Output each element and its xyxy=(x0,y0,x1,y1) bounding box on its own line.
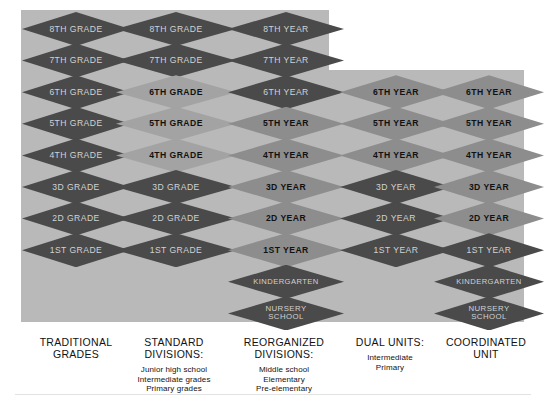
caption-heading: REORGANIZEDDIVISIONS: xyxy=(224,336,344,360)
cell-label: KINDERGARTEN xyxy=(456,278,522,286)
cell-label: 3D GRADE xyxy=(152,183,200,192)
cell-label: 3D YEAR xyxy=(376,183,416,192)
cell-label: 7TH GRADE xyxy=(149,56,202,65)
cell-label: 1ST YEAR xyxy=(467,246,512,255)
caption-heading: STANDARDDIVISIONS: xyxy=(112,336,236,360)
cell-label: 2D GRADE xyxy=(152,214,200,223)
caption-reorganized-divisions: REORGANIZEDDIVISIONS:Middle schoolElemen… xyxy=(224,336,344,394)
cell-label: 6TH YEAR xyxy=(373,88,419,97)
cell-label: 6TH YEAR xyxy=(263,88,308,97)
cell-label: 8TH GRADE xyxy=(49,25,102,34)
cell-label: 4TH GRADE xyxy=(149,151,203,160)
cell-label: 5TH GRADE xyxy=(149,119,203,128)
cell-label: NURSERYSCHOOL xyxy=(468,305,509,321)
cell-label: 1ST YEAR xyxy=(374,246,419,255)
cell-label: 7TH GRADE xyxy=(49,56,102,65)
cell-label: 5TH YEAR xyxy=(466,119,512,128)
cell-label: 8TH GRADE xyxy=(149,25,202,34)
cell-label: 4TH YEAR xyxy=(466,151,512,160)
cell-label: 3D GRADE xyxy=(52,183,100,192)
caption-heading: COORDINATEDUNIT xyxy=(428,336,544,360)
cell-label: 4TH YEAR xyxy=(263,151,309,160)
cell-label: 1ST YEAR xyxy=(263,246,308,255)
cell-label: 1ST GRADE xyxy=(50,246,103,255)
cell-label: 7TH YEAR xyxy=(263,56,308,65)
cell-label: 6TH YEAR xyxy=(466,88,512,97)
caption-standard-divisions: STANDARDDIVISIONS:Junior high schoolInte… xyxy=(112,336,236,394)
cell-label: 4TH GRADE xyxy=(49,151,102,160)
cell-label: 5TH GRADE xyxy=(49,119,102,128)
chart-figure: 8TH GRADE7TH GRADE6TH GRADE5TH GRADE4TH … xyxy=(0,0,545,395)
cell-label: KINDERGARTEN xyxy=(253,278,319,286)
cell-label: NURSERYSCHOOL xyxy=(265,305,306,321)
caption-subitems: Middle schoolElementaryPre-elementary xyxy=(224,365,344,394)
cell-label: 4TH YEAR xyxy=(373,151,419,160)
cell-label: 5TH YEAR xyxy=(263,119,309,128)
cell-label: 2D YEAR xyxy=(469,214,509,223)
caption-subitems: Junior high schoolIntermediate gradesPri… xyxy=(112,365,236,394)
cell-label: 2D YEAR xyxy=(266,214,306,223)
cell-label: 3D YEAR xyxy=(266,183,306,192)
cell-label: 8TH YEAR xyxy=(263,25,308,34)
cell-label: 3D YEAR xyxy=(469,183,509,192)
cell-label: 2D YEAR xyxy=(376,214,416,223)
cell-label: 6TH GRADE xyxy=(49,88,102,97)
cell-label: 5TH YEAR xyxy=(373,119,419,128)
cell-label: 2D GRADE xyxy=(52,214,100,223)
cell-label: 1ST GRADE xyxy=(150,246,203,255)
caption-coordinated-unit: COORDINATEDUNIT xyxy=(428,336,544,360)
cell-label: 6TH GRADE xyxy=(149,88,203,97)
